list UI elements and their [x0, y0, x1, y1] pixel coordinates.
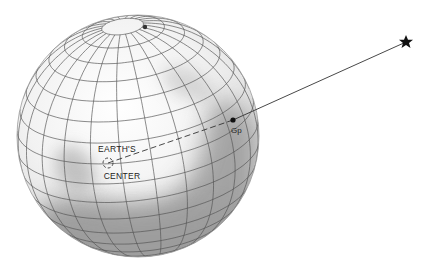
label-center: CENTER [104, 171, 141, 181]
pole-marker [143, 25, 147, 29]
label-earths: EARTH'S [98, 144, 136, 154]
star-icon [399, 35, 413, 48]
geographic-position-point [230, 117, 235, 122]
celestial-diagram: EARTH'S CENTER Gp [0, 0, 427, 275]
label-gp: Gp [231, 126, 242, 135]
globe [17, 15, 260, 275]
star-ray-line [233, 42, 406, 120]
